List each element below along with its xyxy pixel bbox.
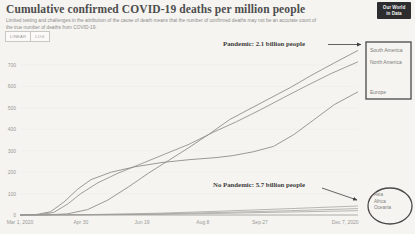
end-label-north-america: North America [370, 59, 402, 65]
series-line-europe [20, 92, 358, 215]
x-tick-label: Sep 27 [252, 219, 268, 225]
y-tick-label: 700 [0, 62, 16, 68]
x-tick-label: Mar 1, 2020 [7, 219, 34, 225]
y-tick-label: 300 [0, 148, 16, 154]
x-tick-label: Dec 7, 2020 [332, 219, 359, 225]
y-tick-label: 500 [0, 105, 16, 111]
x-tick-label: Aug 8 [196, 219, 209, 225]
label-africa: Africa [374, 199, 391, 206]
owid-chart-screenshot: Cumulative confirmed COVID-19 deaths per… [0, 0, 415, 234]
label-oceania: Oceania [374, 205, 391, 212]
y-tick-label: 400 [0, 126, 16, 132]
series-lines [20, 50, 358, 215]
x-tick-label: Apr 30 [73, 219, 88, 225]
gridlines [20, 65, 358, 215]
end-label-south-america: South America [370, 47, 403, 53]
chart-plot-area [0, 0, 415, 234]
pandemic-annotation: Pandemic: 2.1 billion people [223, 40, 305, 47]
no-pandemic-annotation: No Pandemic: 5.7 billion people [213, 181, 305, 188]
end-label-europe: Europe [370, 89, 386, 95]
series-line-south-america [20, 50, 358, 215]
no-pandemic-member-labels: Asia Africa Oceania [374, 192, 391, 212]
x-tick-label: Jun 19 [135, 219, 150, 225]
y-tick-label: 0 [0, 212, 16, 218]
label-asia: Asia [374, 192, 391, 199]
y-tick-label: 100 [0, 191, 16, 197]
y-tick-label: 200 [0, 169, 16, 175]
y-tick-label: 600 [0, 83, 16, 89]
no-pandemic-arrow [322, 188, 357, 200]
series-line-north-america [20, 62, 358, 215]
